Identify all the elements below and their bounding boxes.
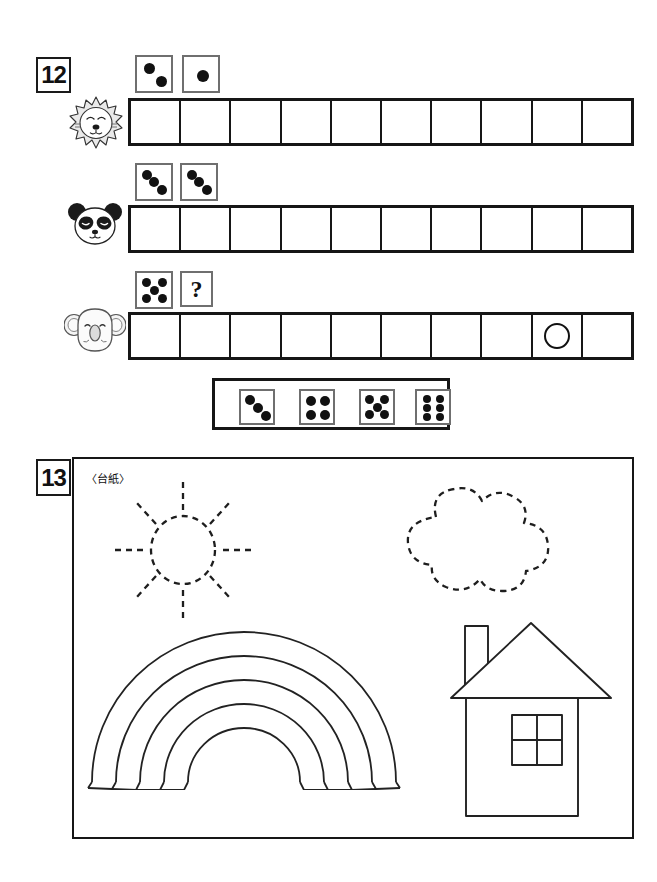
answer-cell[interactable] xyxy=(533,315,583,357)
answer-cell[interactable] xyxy=(583,208,631,250)
house-shape[interactable] xyxy=(448,618,614,823)
answer-cell[interactable] xyxy=(131,315,181,357)
die-2[interactable] xyxy=(135,55,173,93)
answer-cell[interactable] xyxy=(482,101,532,143)
answer-cell[interactable] xyxy=(382,208,432,250)
answer-cell[interactable] xyxy=(332,208,382,250)
pip xyxy=(423,413,431,421)
answer-cell[interactable] xyxy=(432,315,482,357)
circle-mark xyxy=(544,323,570,349)
koala-head-icon xyxy=(64,305,126,355)
lion-head-icon xyxy=(66,94,126,152)
pip xyxy=(156,76,167,87)
answer-cell[interactable] xyxy=(231,315,281,357)
answer-strip-row-1 xyxy=(128,98,634,146)
pip xyxy=(365,410,374,419)
choice-3[interactable] xyxy=(239,389,275,425)
panda-head-icon xyxy=(66,199,124,251)
die-3-a[interactable] xyxy=(135,163,173,201)
answer-cell[interactable] xyxy=(282,315,332,357)
answer-cell[interactable] xyxy=(181,208,231,250)
cloud-shape[interactable] xyxy=(374,483,570,609)
answer-cell[interactable] xyxy=(131,208,181,250)
rainbow-shape[interactable] xyxy=(86,618,408,790)
answer-cell[interactable] xyxy=(181,315,231,357)
answer-strip-row-2 xyxy=(128,205,634,253)
pip xyxy=(144,63,155,74)
answer-cell[interactable] xyxy=(131,101,181,143)
choice-5[interactable] xyxy=(359,389,395,425)
answer-cell[interactable] xyxy=(382,315,432,357)
answer-cell[interactable] xyxy=(332,315,382,357)
choice-6[interactable] xyxy=(415,389,451,425)
answer-choice-bank xyxy=(212,378,450,430)
pip xyxy=(158,294,167,303)
pip xyxy=(142,294,151,303)
die-5[interactable] xyxy=(135,271,173,309)
pip xyxy=(306,410,316,420)
answer-cell[interactable] xyxy=(332,101,382,143)
sun-shape[interactable] xyxy=(108,480,258,620)
pip xyxy=(380,395,389,404)
pip xyxy=(157,185,167,195)
die-3-b[interactable] xyxy=(180,163,218,201)
pip xyxy=(436,395,444,403)
pip xyxy=(320,410,330,420)
die-1[interactable] xyxy=(182,55,220,93)
answer-cell[interactable] xyxy=(583,315,631,357)
pip xyxy=(320,396,330,406)
answer-cell[interactable] xyxy=(533,208,583,250)
pip xyxy=(158,278,167,287)
choice-4[interactable] xyxy=(299,389,335,425)
pip xyxy=(306,396,316,406)
pip xyxy=(197,70,209,82)
answer-cell[interactable] xyxy=(181,101,231,143)
answer-strip-row-3 xyxy=(128,312,634,360)
pip xyxy=(380,410,389,419)
answer-cell[interactable] xyxy=(583,101,631,143)
pip xyxy=(261,411,271,421)
pip xyxy=(436,413,444,421)
answer-cell[interactable] xyxy=(533,101,583,143)
answer-cell[interactable] xyxy=(382,101,432,143)
pip xyxy=(150,286,159,295)
answer-cell[interactable] xyxy=(482,315,532,357)
worksheet-page: 12 xyxy=(0,0,657,882)
pip xyxy=(365,395,374,404)
question-box[interactable]: ? xyxy=(180,271,213,307)
answer-cell[interactable] xyxy=(432,208,482,250)
answer-cell[interactable] xyxy=(231,101,281,143)
answer-cell[interactable] xyxy=(231,208,281,250)
problem-number-12: 12 xyxy=(36,57,71,93)
problem-number-13: 13 xyxy=(36,459,71,496)
pip xyxy=(142,278,151,287)
answer-cell[interactable] xyxy=(282,101,332,143)
pip xyxy=(202,185,212,195)
answer-cell[interactable] xyxy=(482,208,532,250)
pip xyxy=(423,404,431,412)
pip xyxy=(436,404,444,412)
answer-cell[interactable] xyxy=(432,101,482,143)
pip xyxy=(423,395,431,403)
answer-cell[interactable] xyxy=(282,208,332,250)
